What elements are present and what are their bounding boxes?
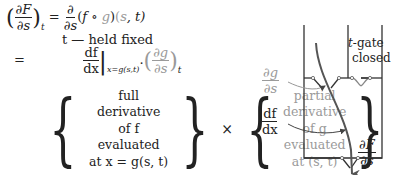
t-gate-label: tt-gate-gate closed xyxy=(352,36,382,66)
gate-circuit-diagram xyxy=(0,0,404,175)
df-dx-input-label: dfdx xyxy=(262,107,278,136)
dF-ds-output-label: ∂F∂s xyxy=(358,138,376,167)
df-input-arrow-icon xyxy=(288,124,345,133)
dg-ds-input-label: ∂g∂s xyxy=(262,66,279,95)
flow-arrow-icon xyxy=(316,43,352,174)
